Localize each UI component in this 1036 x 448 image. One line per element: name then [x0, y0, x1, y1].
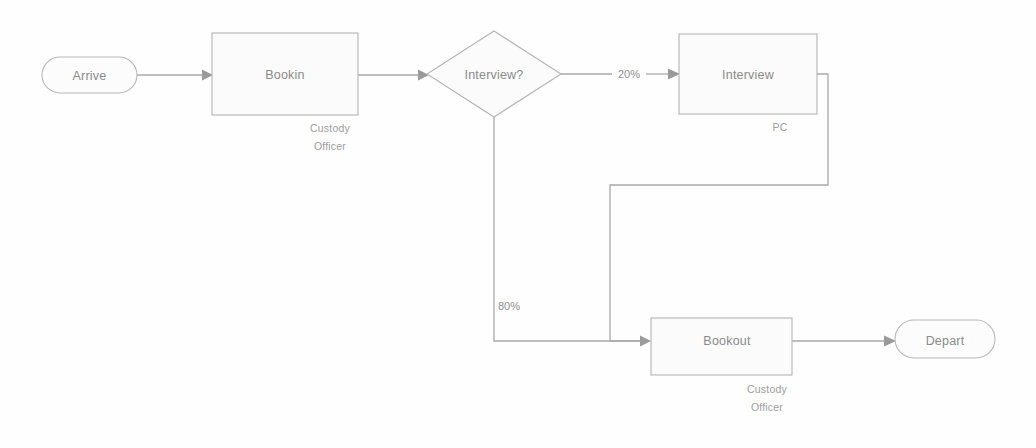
node-interview-resource-line1: PC	[773, 121, 788, 133]
node-bookout[interactable]: Bookout	[651, 318, 792, 375]
node-bookin-resource-line2: Officer	[314, 140, 346, 152]
node-bookin-resource: Custody Officer	[310, 122, 350, 152]
node-bookout-label: Bookout	[703, 334, 751, 348]
node-bookin[interactable]: Bookin	[212, 33, 358, 115]
node-arrive[interactable]: Arrive	[42, 57, 137, 93]
edge-bookin-to-decision	[358, 70, 429, 81]
node-interview[interactable]: Interview	[679, 34, 817, 114]
flowchart-diagram: Arrive Bookin Custody Officer Interview?…	[0, 0, 1036, 448]
flowchart-canvas: Arrive Bookin Custody Officer Interview?…	[0, 0, 1036, 448]
node-bookin-label: Bookin	[265, 68, 304, 82]
edge-bookout-to-depart	[792, 336, 896, 347]
edge-decision-to-bookout	[494, 117, 651, 347]
node-bookout-resource-line1: Custody	[747, 383, 787, 395]
edge-label-20-percent: 20%	[618, 68, 640, 80]
node-interview-resource: PC	[773, 121, 788, 133]
node-interview-decision-label: Interview?	[465, 68, 524, 82]
edge-arrive-to-bookin	[137, 70, 213, 81]
node-depart-label: Depart	[926, 334, 965, 348]
node-arrive-label: Arrive	[73, 69, 107, 83]
node-depart[interactable]: Depart	[895, 320, 995, 358]
node-interview-label: Interview	[722, 68, 775, 82]
node-bookout-resource-line2: Officer	[751, 401, 783, 413]
node-bookin-resource-line1: Custody	[310, 122, 350, 134]
node-bookout-resource: Custody Officer	[747, 383, 787, 413]
node-interview-decision[interactable]: Interview?	[427, 31, 561, 117]
edge-label-80-percent: 80%	[498, 300, 520, 312]
